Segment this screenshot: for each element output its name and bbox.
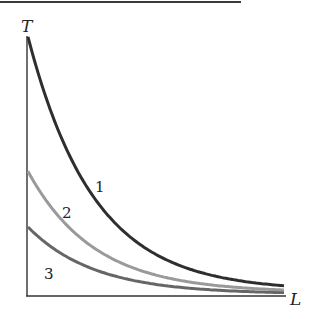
y-axis-label: T [21, 16, 34, 36]
curve-1-label: 1 [95, 178, 105, 196]
curve-2-label: 2 [62, 204, 72, 222]
x-axis-label: L [289, 289, 301, 309]
curve-1 [28, 37, 284, 286]
decay-chart: T L 1 2 3 [0, 0, 315, 319]
curve-3-label: 3 [44, 265, 54, 283]
curve-2 [28, 171, 284, 290]
